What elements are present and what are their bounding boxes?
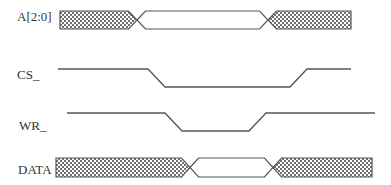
- bus-segment-invalid: [60, 11, 137, 29]
- bus-segment-invalid: [273, 158, 372, 177]
- waveform-wr-: [67, 113, 375, 131]
- bus-segment-invalid: [56, 158, 190, 177]
- bus-segment-valid: [137, 11, 268, 29]
- bus-segment-valid: [190, 158, 273, 177]
- timing-waveforms: [0, 0, 391, 185]
- timing-diagram: A[2:0] CS_ WR_ DATA: [0, 0, 391, 185]
- waveform-cs-: [58, 69, 351, 87]
- signal-label-address: A[2:0]: [17, 10, 52, 23]
- signal-label-write: WR_: [19, 119, 46, 132]
- signal-label-data: DATA: [18, 163, 52, 176]
- signal-label-chip-select: CS_: [17, 68, 39, 81]
- bus-segment-invalid: [268, 11, 351, 29]
